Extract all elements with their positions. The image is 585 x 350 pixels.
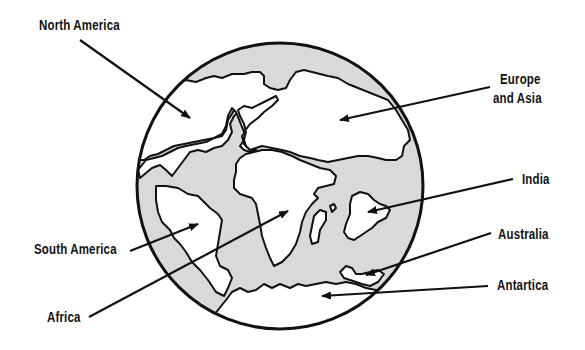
- arrow-north-america: [80, 40, 190, 118]
- globe: [137, 43, 423, 340]
- label-europe-asia-line1: Europe: [500, 70, 541, 88]
- label-australia: Australia: [498, 225, 549, 243]
- pangaea-diagram: [0, 0, 585, 350]
- label-south-america: South America: [34, 240, 117, 258]
- label-africa: Africa: [47, 308, 81, 326]
- label-north-america: North America: [39, 16, 120, 34]
- label-india: India: [522, 170, 550, 188]
- landmass-antarctica: [200, 282, 420, 340]
- label-europe-asia-line2: and Asia: [493, 89, 542, 107]
- label-antarctica: Antartica: [497, 276, 548, 294]
